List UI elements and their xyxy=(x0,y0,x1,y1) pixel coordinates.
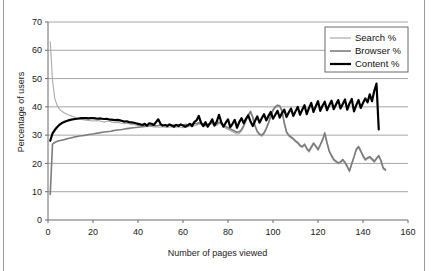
x-tick-label: 0 xyxy=(45,227,50,237)
x-tick-label: 20 xyxy=(88,227,98,237)
y-tick-label: 50 xyxy=(32,74,42,84)
y-tick-label: 30 xyxy=(32,130,42,140)
y-tick-label: 70 xyxy=(32,17,42,27)
x-tick-label: 140 xyxy=(355,227,370,237)
x-tick-label: 100 xyxy=(265,227,280,237)
x-axis-title: Number of pages viewed xyxy=(0,248,435,258)
y-tick-label: 40 xyxy=(32,102,42,112)
legend-label: Browser % xyxy=(355,45,401,56)
legend-label: Content % xyxy=(355,58,400,69)
chart-figure: 010203040506070020406080100120140160Sear… xyxy=(0,0,435,271)
y-tick-label: 0 xyxy=(37,215,42,225)
line-chart: 010203040506070020406080100120140160Sear… xyxy=(0,0,435,271)
y-axis-title: Percentage of users xyxy=(16,37,26,187)
y-tick-label: 20 xyxy=(32,159,42,169)
y-tick-label: 10 xyxy=(32,187,42,197)
y-tick-label: 60 xyxy=(32,45,42,55)
x-tick-label: 60 xyxy=(178,227,188,237)
x-tick-label: 120 xyxy=(310,227,325,237)
x-tick-label: 80 xyxy=(223,227,233,237)
x-tick-label: 160 xyxy=(400,227,415,237)
x-tick-label: 40 xyxy=(133,227,143,237)
legend-label: Search % xyxy=(355,32,397,43)
